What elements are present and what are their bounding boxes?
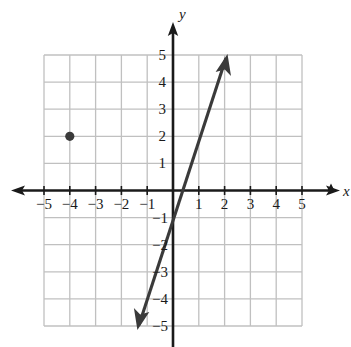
x-tick-labels-positive: 1 2 3 4 5	[195, 196, 306, 212]
x-tick-label: −5	[36, 196, 52, 212]
plotted-point	[65, 132, 74, 141]
y-tick-label: −3	[152, 264, 168, 280]
x-axis-label: x	[342, 183, 350, 199]
x-tick-label: −2	[113, 196, 129, 212]
x-tick-label: 5	[298, 196, 306, 212]
x-tick-labels-negative: −5 −4 −3 −2 −1	[36, 196, 155, 212]
y-tick-label: −1	[152, 210, 168, 226]
x-tick-label: −4	[62, 196, 78, 212]
y-tick-label: 5	[159, 47, 167, 63]
y-tick-labels-positive: 5 4 3 2 1	[159, 47, 167, 171]
y-tick-label: −4	[152, 291, 168, 307]
y-axis-label: y	[177, 6, 186, 22]
y-tick-label: −5	[152, 318, 168, 334]
y-tick-label: 2	[159, 128, 167, 144]
y-tick-label: 4	[159, 74, 167, 90]
x-tick-label: 4	[272, 196, 280, 212]
coordinate-plane: y x −5 −4 −3 −2 −1 1 2 3 4 5 5 4 3 2 1 −…	[0, 0, 351, 347]
x-tick-label: 1	[195, 196, 203, 212]
y-tick-label: −2	[152, 237, 168, 253]
y-tick-labels-negative: −1 −2 −3 −4 −5	[152, 210, 168, 334]
y-tick-label: 1	[159, 155, 167, 171]
y-tick-label: 3	[159, 101, 167, 117]
x-tick-label: −3	[88, 196, 104, 212]
graph-canvas: y x −5 −4 −3 −2 −1 1 2 3 4 5 5 4 3 2 1 −…	[0, 0, 351, 347]
line-arrow-up	[216, 54, 231, 76]
x-tick-label: 2	[221, 196, 229, 212]
x-tick-label: 3	[247, 196, 255, 212]
